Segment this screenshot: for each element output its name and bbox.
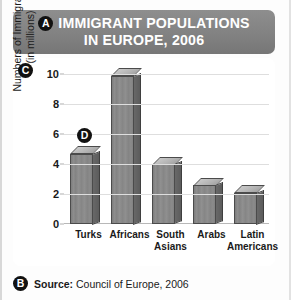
- y-axis-tick-mark: [60, 74, 64, 75]
- chart-title-text-line2: IN EUROPE, 2006: [84, 32, 205, 48]
- y-axis-tick-label: 8: [53, 98, 59, 110]
- bar-side-face: [92, 151, 100, 224]
- y-axis-tick-label: 2: [53, 188, 59, 200]
- y-axis-tick-label: 0: [53, 218, 59, 230]
- gridline: [64, 134, 269, 135]
- chart-page: A IMMIGRANT POPULATIONS IN EUROPE, 2006 …: [0, 0, 291, 300]
- gridline: [64, 164, 269, 165]
- chart-source-footer: B Source: Council of Europe, 2006: [13, 276, 189, 291]
- title-line-1: A IMMIGRANT POPULATIONS: [38, 16, 250, 31]
- bar-side-face: [174, 161, 182, 224]
- chart-title-text-line1: IMMIGRANT POPULATIONS: [58, 16, 250, 31]
- y-axis-tick-label: 6: [53, 128, 59, 140]
- callout-marker-d: D: [77, 128, 92, 143]
- callout-marker-a: A: [38, 16, 53, 31]
- bar-side-face: [133, 73, 141, 224]
- gridline: [64, 194, 269, 195]
- callout-marker-b: B: [13, 276, 28, 291]
- bar-group: TurksAfricansSouthAsiansArabsLatinAmeric…: [64, 74, 269, 224]
- y-axis-tick-mark: [60, 194, 64, 195]
- gridline: [64, 104, 269, 105]
- chart-card: Numbers of Immigrants (in millions) Turk…: [13, 58, 275, 266]
- x-axis-category-label-line: Americans: [225, 241, 281, 253]
- y-axis-tick-mark: [60, 104, 64, 105]
- source-label: Source:: [34, 278, 73, 290]
- bar-front-face: [111, 76, 134, 225]
- y-axis-tick-label: 10: [47, 68, 59, 80]
- bar[interactable]: [111, 76, 134, 225]
- x-axis-category-label: LatinAmericans: [225, 229, 281, 253]
- callout-marker-c: C: [18, 63, 33, 78]
- gridline: [64, 74, 269, 75]
- y-axis-tick-mark: [60, 224, 64, 225]
- source-text: Source: Council of Europe, 2006: [34, 278, 189, 290]
- bar[interactable]: [193, 185, 216, 224]
- x-axis-category-label-line: Asians: [143, 241, 199, 253]
- y-axis-tick-label: 4: [53, 158, 59, 170]
- bar[interactable]: [234, 193, 257, 225]
- chart-title-banner: A IMMIGRANT POPULATIONS IN EUROPE, 2006: [13, 10, 275, 54]
- bar-front-face: [193, 185, 216, 224]
- plot-area: TurksAfricansSouthAsiansArabsLatinAmeric…: [64, 74, 269, 224]
- bar-side-face: [215, 182, 223, 224]
- y-axis-tick-mark: [60, 164, 64, 165]
- source-value: Council of Europe, 2006: [73, 278, 189, 290]
- x-axis-category-label-line: Latin: [225, 229, 281, 241]
- bar-front-face: [234, 193, 257, 225]
- y-axis-tick-mark: [60, 134, 64, 135]
